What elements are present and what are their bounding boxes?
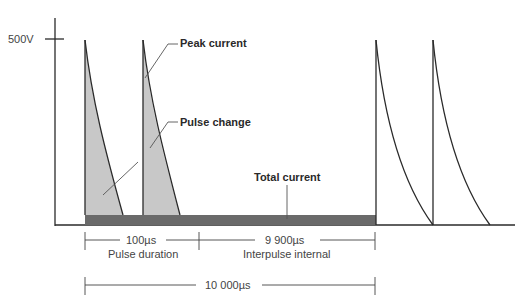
pulse-2-fill [143, 40, 180, 215]
pulse-change-label: Pulse change [180, 117, 251, 128]
pulse-duration-value: 100µs [126, 235, 156, 246]
pulse-3-decay [376, 40, 433, 225]
peak-current-label: Peak current [180, 38, 247, 49]
interpulse-value: 9 900µs [265, 235, 304, 246]
interpulse-label: Interpulse internal [243, 249, 330, 260]
peak-current-leader [145, 44, 178, 78]
total-current-label: Total current [254, 172, 320, 183]
pulse-1-fill [85, 40, 123, 215]
pulse-4-decay [433, 40, 490, 225]
y-axis-tick-label: 500V [8, 34, 34, 45]
pulse-duration-label: Pulse duration [108, 249, 178, 260]
total-current-bar [85, 215, 376, 225]
total-period-value: 10 000µs [205, 280, 250, 291]
